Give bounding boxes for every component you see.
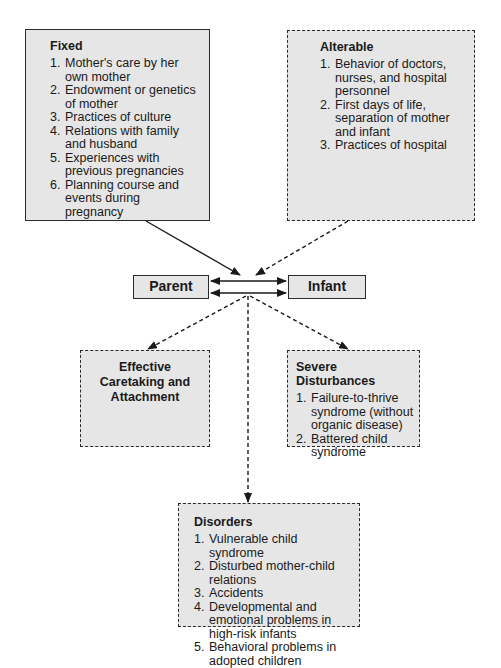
list-item: 4.Developmental and emotional problems i… — [194, 601, 353, 642]
severe-disturbances-box: Severe Disturbances 1.Failure-to-thrive … — [287, 350, 420, 447]
effective-title: Effective Caretaking and Attachment — [87, 360, 203, 405]
list-item: 3.Practices of hospital — [320, 139, 464, 153]
parent-node: Parent — [133, 275, 209, 299]
alterable-list: 1.Behavior of doctors, nurses, and hospi… — [320, 58, 464, 153]
list-item: 2.Battered child syndrome — [296, 433, 415, 460]
alterable-factors-box: Alterable 1.Behavior of doctors, nurses,… — [287, 30, 475, 221]
disorders-box: Disorders 1.Vulnerable child syndrome 2.… — [178, 503, 360, 627]
list-item: 1.Mother's care by her own mother — [50, 57, 199, 84]
alterable-title: Alterable — [320, 40, 464, 54]
list-item: 1.Failure-to-thrive syndrome (without or… — [296, 392, 415, 433]
severe-title: Severe Disturbances — [296, 360, 415, 388]
list-item: 3.Practices of culture — [50, 111, 199, 125]
fixed-list: 1.Mother's care by her own mother 2.Endo… — [50, 57, 199, 219]
fixed-factors-box: Fixed 1.Mother's care by her own mother … — [25, 29, 210, 221]
list-item: 2.First days of life, separation of moth… — [320, 99, 464, 140]
list-item: 1.Vulnerable child syndrome — [194, 533, 353, 560]
severe-list: 1.Failure-to-thrive syndrome (without or… — [296, 392, 415, 460]
list-item: 2.Endowment or genetics of mother — [50, 84, 199, 111]
fixed-title: Fixed — [50, 39, 199, 53]
list-item: 4.Relations with family and husband — [50, 125, 199, 152]
infant-node: Infant — [288, 275, 366, 299]
list-item: 6.Planning course and events during preg… — [50, 179, 199, 220]
list-item: 5.Behavioral problems in adopted childre… — [194, 641, 353, 668]
list-item: 5.Experiences with previous pregnancies — [50, 152, 199, 179]
disorders-list: 1.Vulnerable child syndrome 2.Disturbed … — [194, 533, 353, 668]
effective-caretaking-box: Effective Caretaking and Attachment — [80, 350, 210, 447]
list-item: 2.Disturbed mother-child relations — [194, 560, 353, 587]
list-item: 1.Behavior of doctors, nurses, and hospi… — [320, 58, 464, 99]
list-item: 3.Accidents — [194, 587, 353, 601]
disorders-title: Disorders — [194, 515, 353, 529]
